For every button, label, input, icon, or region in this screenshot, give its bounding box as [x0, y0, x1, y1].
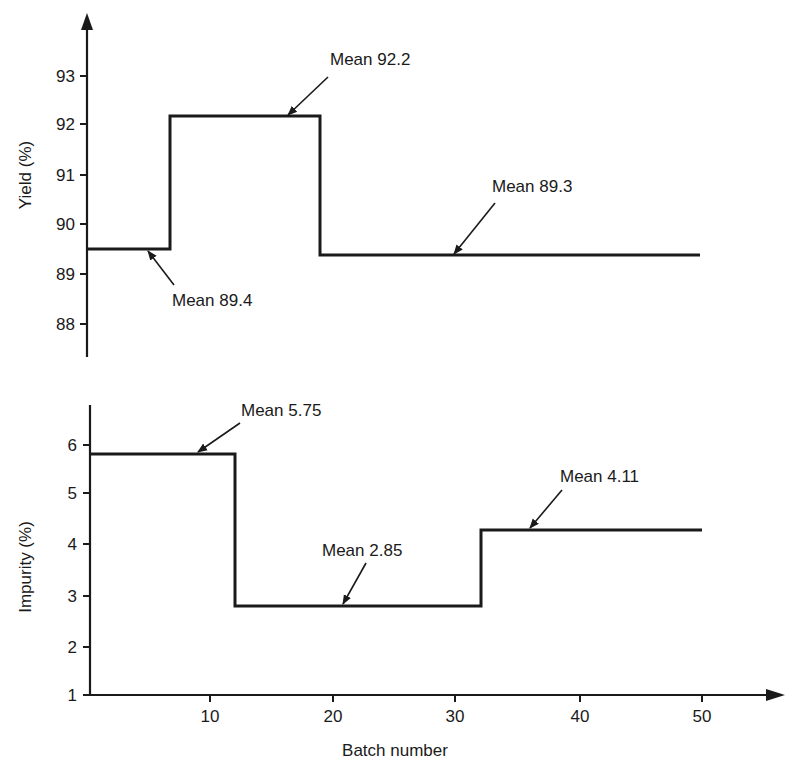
xtick-20: 20	[324, 707, 343, 726]
xtick-30: 30	[446, 707, 465, 726]
impurity-chart: 6 5 4 3 2 1 10 20 30 40 50 Batch number …	[16, 401, 785, 760]
impurity-x-axis: 10 20 30 40 50	[84, 689, 785, 726]
arrow-icon	[454, 203, 495, 254]
yield-chart: 93 92 91 90 89 88 Yield (%) Mean 92.2 Me…	[16, 13, 700, 357]
svg-text:Mean 5.75: Mean 5.75	[241, 401, 321, 420]
impurity-annotation-mean-4-11: Mean 4.11	[530, 467, 639, 528]
impurity-y-axis-title: Impurity (%)	[16, 521, 35, 613]
svg-text:Mean 89.3: Mean 89.3	[492, 177, 572, 196]
impurity-annotation-mean-5-75: Mean 5.75	[198, 401, 321, 452]
yield-ytick-90: 90	[56, 215, 75, 234]
yield-y-axis-title: Yield (%)	[16, 141, 35, 209]
impurity-annotation-mean-2-85: Mean 2.85	[322, 541, 402, 604]
xtick-10: 10	[201, 707, 220, 726]
yield-y-axis: 93 92 91 90 89 88	[56, 13, 93, 357]
yield-ytick-88: 88	[56, 315, 75, 334]
impurity-ytick-2: 2	[68, 638, 77, 657]
yield-annotation-mean-89-4: Mean 89.4	[148, 251, 252, 310]
yield-annotation-mean-92-2: Mean 92.2	[288, 50, 410, 115]
y-axis-arrow-icon	[81, 13, 93, 30]
arrow-icon	[530, 490, 562, 528]
svg-text:Mean 4.11: Mean 4.11	[560, 467, 639, 486]
yield-step-line	[87, 116, 700, 255]
svg-text:Mean 89.4: Mean 89.4	[172, 291, 252, 310]
x-axis-title: Batch number	[342, 741, 448, 760]
arrow-icon	[148, 251, 174, 285]
impurity-ytick-3: 3	[68, 587, 77, 606]
yield-annotation-mean-89-3: Mean 89.3	[454, 177, 572, 254]
svg-text:Mean 2.85: Mean 2.85	[322, 541, 402, 560]
impurity-ytick-5: 5	[68, 484, 77, 503]
impurity-ytick-6: 6	[68, 436, 77, 455]
impurity-ytick-1: 1	[68, 686, 77, 705]
yield-ytick-91: 91	[56, 166, 75, 185]
svg-text:Mean 92.2: Mean 92.2	[330, 50, 410, 69]
yield-ytick-92: 92	[56, 115, 75, 134]
arrow-icon	[198, 423, 240, 452]
arrow-icon	[288, 77, 328, 115]
impurity-ytick-4: 4	[68, 535, 77, 554]
arrow-icon	[343, 563, 366, 604]
yield-ytick-93: 93	[56, 67, 75, 86]
yield-ytick-89: 89	[56, 265, 75, 284]
impurity-y-axis: 6 5 4 3 2 1	[68, 405, 90, 705]
x-axis-arrow-icon	[766, 689, 785, 701]
xtick-50: 50	[693, 707, 712, 726]
xtick-40: 40	[571, 707, 590, 726]
chart-canvas: 93 92 91 90 89 88 Yield (%) Mean 92.2 Me…	[0, 0, 797, 780]
